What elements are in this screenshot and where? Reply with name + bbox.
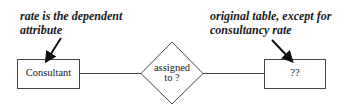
consultant-entity-label: Consultant bbox=[17, 67, 80, 78]
annotation-arrow-right bbox=[272, 40, 291, 60]
annotation-left-line2: attribute bbox=[20, 23, 122, 37]
annotation-left-line1: rate is the dependent bbox=[20, 9, 122, 23]
relationship-label: assigned to ? bbox=[146, 63, 198, 83]
annotation-right: original table, except for consultancy r… bbox=[210, 9, 331, 37]
annotation-left: rate is the dependent attribute bbox=[20, 9, 122, 37]
annotation-arrow-left bbox=[47, 38, 61, 60]
relationship-label-line2: to ? bbox=[146, 73, 198, 83]
unknown-entity-label: ?? bbox=[264, 67, 326, 78]
annotation-right-line1: original table, except for bbox=[210, 9, 331, 23]
annotation-right-line2: consultancy rate bbox=[210, 23, 331, 37]
